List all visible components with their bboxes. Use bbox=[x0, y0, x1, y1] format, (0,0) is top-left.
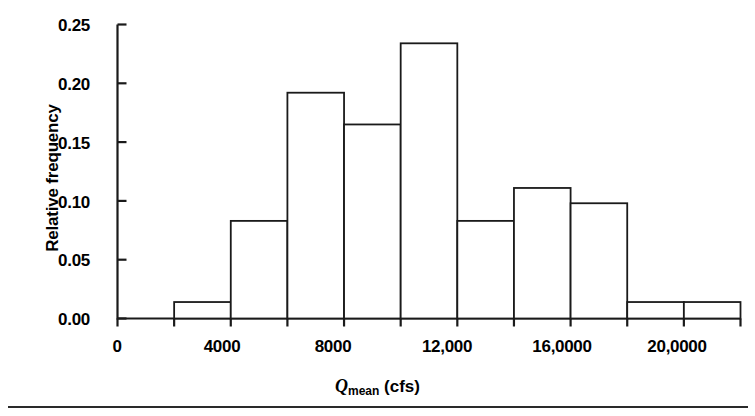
histogram-bar bbox=[174, 302, 231, 318]
histogram-bar bbox=[627, 302, 684, 318]
plot-area bbox=[0, 0, 755, 416]
histogram-bar bbox=[571, 203, 628, 318]
page-horizontal-rule bbox=[8, 406, 748, 408]
histogram-bar bbox=[684, 302, 741, 318]
histogram-bar bbox=[401, 43, 458, 318]
histogram-bar bbox=[287, 93, 344, 319]
histogram-bar bbox=[457, 221, 514, 319]
histogram-bar bbox=[514, 188, 571, 319]
histogram-figure: Relative frequency 0.25 0.20 0.15 0.10 0… bbox=[0, 0, 755, 416]
histogram-bar bbox=[344, 124, 401, 318]
histogram-bar bbox=[231, 221, 288, 319]
